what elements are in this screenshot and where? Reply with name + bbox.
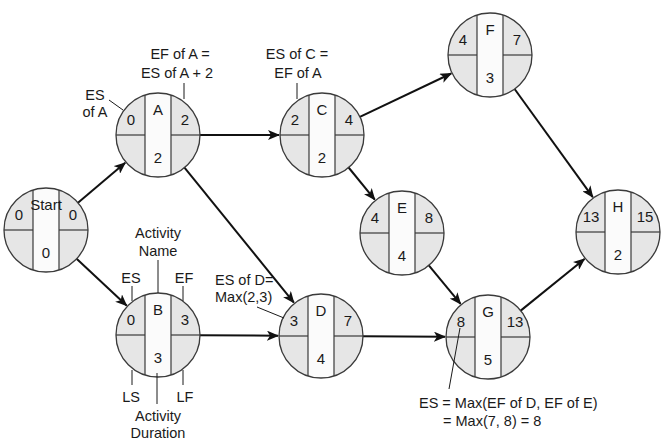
annotation-es-of-a-line2: of A — [83, 104, 108, 120]
node-c[interactable]: C242 — [280, 93, 364, 177]
node-activity-name: C — [317, 101, 328, 118]
node-duration: 0 — [42, 244, 50, 261]
node-activity-name: G — [482, 303, 494, 320]
node-early-start: 4 — [459, 31, 467, 48]
node-f[interactable]: F473 — [448, 13, 532, 97]
node-b[interactable]: B033 — [116, 293, 200, 377]
node-early-start: 4 — [371, 209, 379, 226]
node-early-finish: 8 — [425, 209, 433, 226]
edge-c-to-e — [349, 168, 375, 200]
annotation-es-of-c: ES of C = EF of A — [266, 46, 328, 99]
node-early-finish: 4 — [345, 111, 353, 128]
node-early-start: 0 — [15, 206, 23, 223]
annotation-ef-of-a: EF of A = ES of A + 2 — [141, 46, 213, 99]
annotation-es-of-a: ES of A — [83, 87, 124, 120]
annotation-ls-label-text: LS — [122, 389, 140, 405]
node-early-finish: 3 — [181, 311, 189, 328]
node-early-start: 0 — [127, 311, 135, 328]
node-activity-name: Start — [30, 196, 63, 213]
nodes-layer: Start000A022B033C242D374E484F473G8135H13… — [4, 13, 660, 379]
annotation-lf-label: LF — [177, 370, 194, 405]
annotation-es-of-d-line2: Max(2,3) — [215, 289, 272, 305]
node-early-finish: 15 — [637, 208, 654, 225]
edge-start-to-a — [78, 163, 125, 203]
annotation-es-of-d-line1: ES of D= — [215, 272, 273, 288]
node-d[interactable]: D374 — [279, 294, 363, 378]
leader-line — [109, 100, 123, 110]
edge-c-to-f — [360, 74, 451, 117]
annotation-ef-of-a-line1: EF of A = — [150, 46, 209, 62]
node-activity-name: F — [485, 21, 494, 38]
edge-g-to-h — [521, 259, 585, 311]
node-early-start: 0 — [127, 111, 135, 128]
node-early-start: 13 — [583, 208, 600, 225]
node-duration: 2 — [154, 149, 162, 166]
annotation-es-of-g-line2: = Max(7, 8) = 8 — [443, 413, 541, 429]
annotation-es-of-a-line1: ES — [85, 87, 104, 103]
edge-e-to-g — [429, 265, 461, 304]
node-early-finish: 0 — [69, 206, 77, 223]
node-early-finish: 2 — [181, 111, 189, 128]
annotation-es-of-c-line2: EF of A — [274, 65, 322, 81]
node-activity-name: E — [397, 199, 407, 216]
node-start[interactable]: Start000 — [4, 188, 88, 272]
node-duration: 5 — [484, 351, 492, 368]
node-a[interactable]: A022 — [116, 93, 200, 177]
node-early-start: 2 — [291, 111, 299, 128]
node-activity-name: B — [153, 301, 163, 318]
annotation-activity-duration-line2: Duration — [131, 425, 186, 441]
node-duration: 3 — [154, 349, 162, 366]
node-e[interactable]: E484 — [360, 191, 444, 275]
annotation-activity-duration: Activity Duration — [131, 373, 186, 441]
node-early-start: 3 — [290, 312, 298, 329]
node-duration: 2 — [614, 246, 622, 263]
node-activity-name: A — [153, 101, 163, 118]
node-activity-name: D — [316, 302, 327, 319]
node-activity-name: H — [613, 198, 624, 215]
edge-f-to-h — [515, 89, 593, 197]
node-duration: 3 — [486, 69, 494, 86]
node-h[interactable]: H13152 — [576, 190, 660, 274]
annotation-ef-of-a-line2: ES of A + 2 — [141, 65, 213, 81]
node-early-start: 8 — [457, 313, 465, 330]
node-duration: 2 — [318, 149, 326, 166]
annotation-es-label-text: ES — [121, 270, 140, 286]
node-early-finish: 7 — [513, 31, 521, 48]
annotation-lf-label-text: LF — [177, 389, 194, 405]
activity-on-node-network-diagram: Start000A022B033C242D374E484F473G8135H13… — [0, 0, 667, 447]
node-duration: 4 — [317, 350, 325, 367]
annotation-es-of-g-line1: ES = Max(EF of D, EF of E) — [419, 395, 597, 411]
annotation-activity-name-line2: Name — [139, 243, 178, 259]
annotation-ef-label-text: EF — [175, 270, 194, 286]
annotation-ef-label: EF — [175, 270, 194, 301]
annotation-es-of-c-line1: ES of C = — [266, 46, 328, 62]
annotation-ls-label: LS — [122, 370, 140, 405]
node-duration: 4 — [398, 247, 406, 264]
annotation-es-label: ES — [121, 270, 140, 301]
annotation-activity-duration-line1: Activity — [135, 408, 182, 424]
annotation-activity-name-line1: Activity — [135, 225, 182, 241]
node-early-finish: 13 — [507, 313, 524, 330]
node-early-finish: 7 — [344, 312, 352, 329]
leader-line — [257, 307, 284, 318]
edge-start-to-b — [77, 259, 127, 306]
